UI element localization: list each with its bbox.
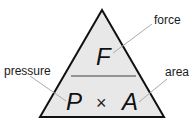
multiply-operator: × xyxy=(96,93,107,113)
force-label: force xyxy=(154,13,181,27)
force-symbol: F xyxy=(96,43,112,70)
pressure-symbol: P xyxy=(66,88,82,115)
pressure-label: pressure xyxy=(4,64,51,78)
area-symbol: A xyxy=(120,88,138,115)
formula-triangle-diagram: force pressure area F P × A xyxy=(0,0,190,124)
area-label: area xyxy=(165,65,189,79)
